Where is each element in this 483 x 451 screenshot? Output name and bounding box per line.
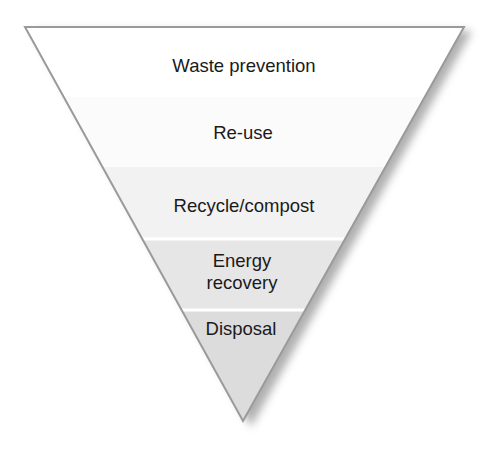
tier-label-energy-line1: Energy [213,250,272,271]
tier-label-recycle-compost: Recycle/compost [174,195,315,216]
waste-hierarchy-diagram: Waste prevention Re-use Recycle/compost … [0,0,483,451]
tier-label-disposal: Disposal [206,318,277,339]
tier-label-energy-line2: recovery [207,272,279,293]
tier-label-waste-prevention: Waste prevention [172,55,315,76]
tier-label-re-use: Re-use [213,122,273,143]
pyramid-tiers [0,27,483,421]
